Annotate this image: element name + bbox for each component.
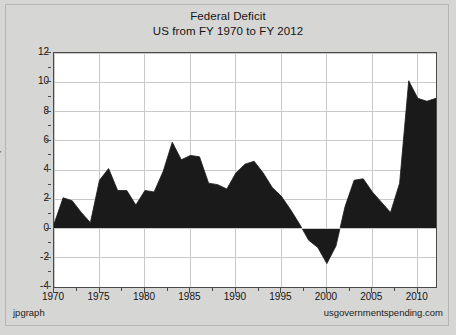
y-tick-0: 0: [15, 223, 49, 233]
y-tick-2: 2: [15, 193, 49, 203]
y-minor-tick-mark: [48, 96, 51, 97]
x-minor-tick-mark: [394, 288, 395, 291]
y-minor-tick-mark: [48, 154, 51, 155]
y-tick-neg2: -2: [15, 252, 49, 262]
x-tick-1985: 1985: [166, 292, 212, 302]
x-tick-mark: [417, 288, 418, 293]
y-tick-mark: [46, 52, 51, 53]
x-tick-mark: [280, 288, 281, 293]
x-tick-2010: 2010: [394, 292, 440, 302]
x-tick-1980: 1980: [121, 292, 167, 302]
y-tick-12: 12: [15, 47, 49, 57]
y-tick-neg4: -4: [15, 281, 49, 291]
y-tick-6: 6: [15, 135, 49, 145]
x-minor-tick-mark: [303, 288, 304, 291]
y-axis-label: percent GDP: [0, 56, 1, 196]
y-minor-tick-mark: [48, 213, 51, 214]
y-tick-mark: [46, 111, 51, 112]
y-tick-10: 10: [15, 76, 49, 86]
x-tick-1990: 1990: [212, 292, 258, 302]
y-tick-4: 4: [15, 164, 49, 174]
x-axis-tick-labels: 197019751980198519901995200020052010: [0, 292, 456, 306]
x-tick-mark: [189, 288, 190, 293]
x-tick-2005: 2005: [348, 292, 394, 302]
x-minor-tick-mark: [76, 288, 77, 291]
x-minor-tick-mark: [258, 288, 259, 291]
y-tick-mark: [46, 286, 51, 287]
plot-area: [53, 52, 437, 288]
footer-credit-library: jpgraph: [13, 307, 45, 318]
x-tick-mark: [99, 288, 100, 293]
x-minor-tick-mark: [349, 288, 350, 291]
x-minor-tick-mark: [212, 288, 213, 291]
x-tick-1970: 1970: [30, 292, 76, 302]
y-tick-mark: [46, 228, 51, 229]
y-axis-tick-labels: 121086420-2-4: [7, 0, 49, 335]
y-minor-tick-mark: [48, 271, 51, 272]
y-tick-mark: [46, 257, 51, 258]
y-tick-mark: [46, 140, 51, 141]
chart-figure: Federal Deficit US from FY 1970 to FY 20…: [0, 0, 456, 335]
y-minor-tick-mark: [48, 184, 51, 185]
series-area-federal-deficit: [54, 81, 436, 264]
x-tick-mark: [326, 288, 327, 293]
y-tick-mark: [46, 169, 51, 170]
y-tick-8: 8: [15, 106, 49, 116]
x-tick-2000: 2000: [303, 292, 349, 302]
y-tick-mark: [46, 81, 51, 82]
y-minor-tick-mark: [48, 67, 51, 68]
x-tick-1995: 1995: [257, 292, 303, 302]
y-minor-tick-mark: [48, 242, 51, 243]
x-tick-1975: 1975: [76, 292, 122, 302]
chart-title-line2: US from FY 1970 to FY 2012: [0, 24, 456, 39]
x-tick-mark: [235, 288, 236, 293]
x-tick-mark: [371, 288, 372, 293]
x-tick-mark: [144, 288, 145, 293]
footer-credit-source: usgovernmentspending.com: [324, 307, 443, 318]
x-minor-tick-mark: [167, 288, 168, 291]
y-tick-mark: [46, 198, 51, 199]
y-minor-tick-mark: [48, 125, 51, 126]
chart-title: Federal Deficit US from FY 1970 to FY 20…: [0, 9, 456, 38]
deficit-area-chart: [54, 53, 436, 287]
x-minor-tick-mark: [121, 288, 122, 291]
x-tick-mark: [53, 288, 54, 293]
chart-title-line1: Federal Deficit: [0, 9, 456, 24]
